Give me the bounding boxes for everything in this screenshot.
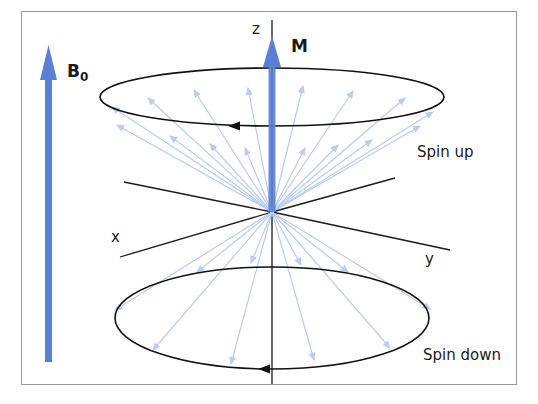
spin-up-label: Spin up — [417, 143, 474, 161]
b0-label: B0 — [67, 61, 88, 84]
z-axis-label: z — [252, 20, 260, 38]
xy-axes — [120, 178, 450, 257]
spin-down-label: Spin down — [423, 346, 501, 364]
spin-down-direction-arrow — [258, 365, 270, 374]
y-axis-label: y — [425, 250, 434, 268]
x-axis-label: x — [111, 228, 120, 246]
m-label: M — [291, 36, 308, 56]
spin-up-direction-arrow — [228, 122, 240, 131]
b0-field-arrow — [40, 45, 57, 362]
